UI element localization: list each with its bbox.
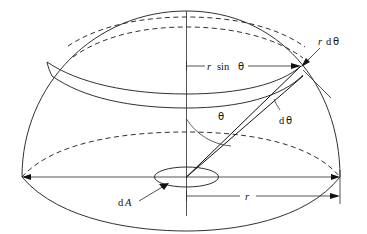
zone-point-lower-leader — [303, 70, 331, 98]
hemisphere-diagram-svg: r sin θ r d θ d θ θ d A r — [0, 0, 367, 234]
zone-upper-edge-arc — [47, 62, 301, 94]
label-ring-radius-sin: sin — [217, 61, 230, 72]
label-ring-radius: r sin θ — [207, 61, 244, 72]
label-ring-radius-r: r — [207, 61, 212, 72]
apex-latitude-back-arc-inner — [73, 27, 303, 58]
area-element-leader-line — [139, 186, 164, 201]
label-ring-radius-theta: θ — [238, 61, 244, 72]
dtheta-angle-arc — [274, 99, 280, 110]
ray-to-zone-lower-edge — [187, 76, 304, 177]
label-arc-length: r d θ — [318, 36, 339, 47]
label-angular-width-d: d — [279, 115, 285, 126]
label-polar-angle: θ — [218, 111, 224, 122]
label-area-element-A: A — [124, 197, 132, 208]
radius-dimension-arrowhead — [330, 193, 340, 199]
label-area-element-d: d — [118, 197, 124, 208]
area-element-arrowhead — [159, 183, 169, 190]
label-radius: r — [245, 191, 250, 202]
arc-length-leader-line — [306, 48, 320, 62]
figure-canvas: r sin θ r d θ d θ θ d A r — [0, 0, 367, 234]
base-circle-back-arc — [22, 132, 340, 177]
label-angular-width-theta: θ — [286, 115, 292, 126]
label-arc-length-r: r — [318, 36, 323, 47]
base-circle-front-arc — [22, 177, 340, 231]
label-angular-width: d θ — [279, 115, 292, 126]
label-arc-length-d: d — [326, 36, 332, 47]
label-arc-length-theta: θ — [333, 36, 339, 47]
label-area-element: d A — [118, 197, 132, 208]
zone-lower-edge-arc — [52, 75, 303, 108]
